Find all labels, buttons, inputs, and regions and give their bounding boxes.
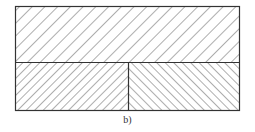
- top-panel: [16, 7, 240, 63]
- figure-caption: b): [0, 114, 255, 125]
- hatched-cross-section-diagram: [0, 0, 255, 132]
- bottom-left-panel: [16, 63, 129, 111]
- bottom-right-panel: [129, 63, 240, 111]
